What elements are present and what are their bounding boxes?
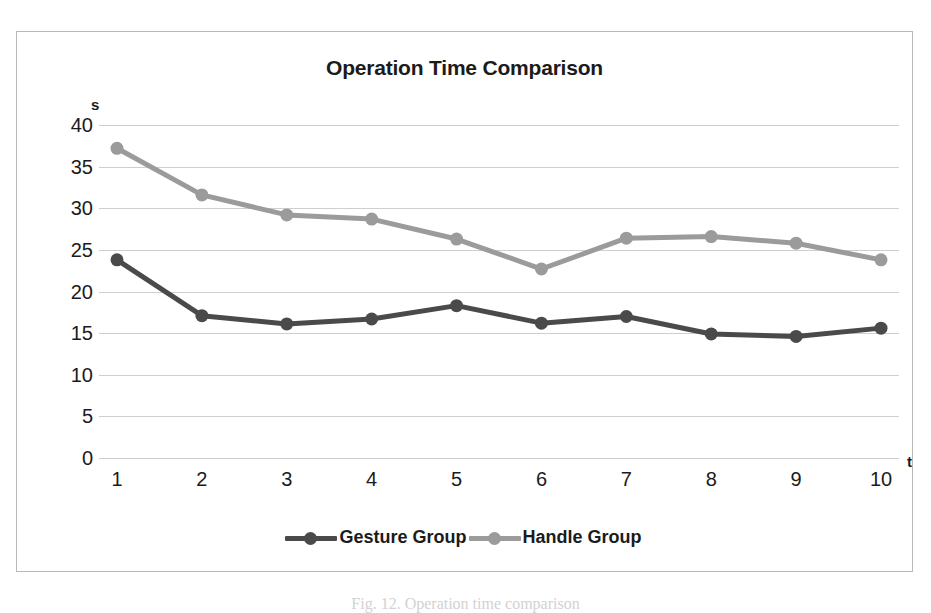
data-point-handle-group-6 [535,263,548,276]
data-point-gesture-group-3 [280,317,293,330]
x-tick-label-10: 10 [851,468,911,491]
x-tick-label-9: 9 [766,468,826,491]
y-tick-label-10: 10 [51,363,93,386]
data-point-gesture-group-4 [365,312,378,325]
data-point-gesture-group-6 [535,317,548,330]
y-axis-unit-label: s [91,96,99,113]
y-tick-label-25: 25 [51,238,93,261]
y-tick-label-15: 15 [51,322,93,345]
figure-frame: Operation Time Comparison s 051015202530… [16,31,913,572]
legend-swatch-handle-group [469,530,521,546]
y-tick-label-40: 40 [51,114,93,137]
chart-legend: Gesture GroupHandle Group [17,527,912,548]
legend-label-handle-group: Handle Group [521,527,644,548]
x-tick-label-6: 6 [511,468,571,491]
data-point-handle-group-4 [365,213,378,226]
data-point-gesture-group-10 [875,322,888,335]
data-point-gesture-group-9 [790,330,803,343]
y-tick-label-35: 35 [51,155,93,178]
y-tick-label-30: 30 [51,197,93,220]
x-axis-tick-labels: 12345678910 [99,468,899,498]
legend-entry-gesture-group[interactable]: Gesture Group [285,527,468,548]
data-point-gesture-group-7 [620,310,633,323]
data-point-gesture-group-5 [450,299,463,312]
gridline-0 [99,458,899,459]
y-tick-label-20: 20 [51,280,93,303]
data-point-handle-group-8 [705,230,718,243]
data-point-handle-group-5 [450,233,463,246]
chart-title: Operation Time Comparison [17,56,912,80]
x-tick-label-4: 4 [342,468,402,491]
data-point-handle-group-1 [111,142,124,155]
x-tick-label-8: 8 [681,468,741,491]
data-point-gesture-group-2 [195,309,208,322]
x-tick-label-5: 5 [427,468,487,491]
series-lines-svg [99,125,899,458]
data-point-handle-group-2 [195,188,208,201]
legend-swatch-gesture-group [285,530,337,546]
series-line-gesture-group [117,260,881,337]
data-point-handle-group-10 [875,253,888,266]
x-axis-unit-label: t [907,453,912,470]
y-tick-label-0: 0 [51,447,93,470]
x-tick-label-2: 2 [172,468,232,491]
data-point-gesture-group-8 [705,327,718,340]
y-axis-tick-labels: 0510152025303540 [51,125,93,458]
series-line-handle-group [117,148,881,269]
data-point-gesture-group-1 [111,253,124,266]
x-tick-label-3: 3 [257,468,317,491]
plot-area [99,125,899,458]
data-point-handle-group-3 [280,208,293,221]
data-point-handle-group-7 [620,232,633,245]
y-tick-label-5: 5 [51,405,93,428]
legend-marker-icon [488,532,501,545]
x-tick-label-7: 7 [596,468,656,491]
legend-entry-handle-group[interactable]: Handle Group [469,527,644,548]
legend-label-gesture-group: Gesture Group [337,527,468,548]
data-point-handle-group-9 [790,237,803,250]
x-tick-label-1: 1 [87,468,147,491]
legend-marker-icon [304,532,317,545]
figure-caption: Fig. 12. Operation time comparison [0,595,931,613]
